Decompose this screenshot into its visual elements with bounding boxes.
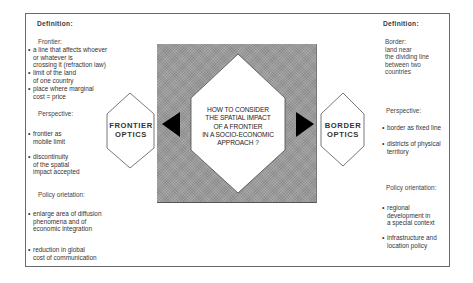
- border-perspective-bullet: • districts of physical territory: [387, 140, 441, 155]
- border-definition-heading: Definition:: [383, 20, 419, 28]
- border-perspective-heading: Perspective:: [386, 107, 421, 115]
- border-perspective-bullet: • border as fixed line: [387, 124, 441, 132]
- border-policy-bullet: • infrastructure and location policy: [387, 234, 437, 249]
- bullet-icon: •: [382, 234, 384, 242]
- border-policy-heading: Policy orientation:: [386, 184, 436, 192]
- central-question: HOW TO CONSIDER THE SPATIAL IMPACT OF A …: [192, 106, 284, 147]
- bullet-icon: •: [382, 140, 384, 148]
- bullet-icon: •: [382, 204, 384, 212]
- border-definition-text: Border: land near the dividing line betw…: [385, 38, 429, 76]
- bullet-icon: •: [382, 124, 384, 132]
- border-policy-bullet: • regional development in a special cont…: [387, 204, 435, 227]
- frontier-optics-label: FRONTIER OPTICS: [106, 121, 156, 140]
- right-arrow-icon: [296, 112, 314, 137]
- left-arrow-icon: [162, 112, 180, 137]
- border-optics-label: BORDER OPTICS: [320, 121, 366, 140]
